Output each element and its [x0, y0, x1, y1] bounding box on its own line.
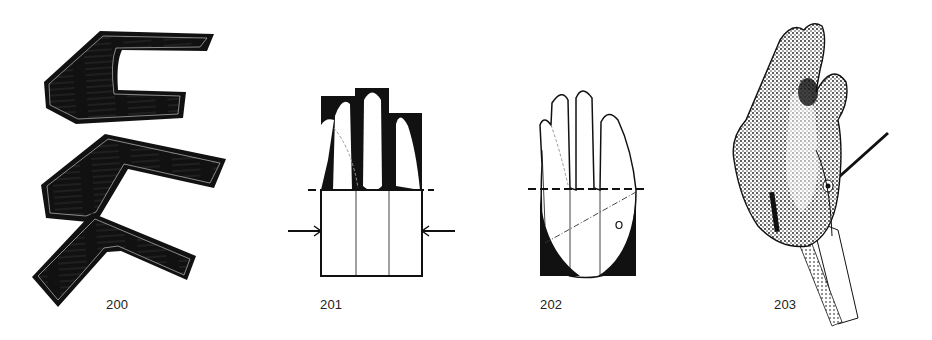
figure-label: 200: [106, 297, 128, 312]
palm-mark-icon: [616, 222, 622, 229]
figure-200: 200: [0, 0, 240, 340]
figure-202: 202: [520, 0, 670, 340]
figure-label: 202: [540, 297, 562, 312]
figure-201: 201: [280, 0, 470, 340]
wood-blanks-illustration: [0, 0, 240, 340]
figure-203: 203: [720, 0, 932, 340]
figure-label: 201: [320, 297, 342, 312]
hand-outline-illustration: [520, 0, 670, 340]
figure-label: 203: [774, 297, 796, 312]
arrow-left-icon: [422, 226, 455, 236]
sculpted-hand-illustration: [720, 0, 932, 340]
arrow-right-icon: [288, 226, 321, 236]
hand-pattern-illustration: [280, 0, 470, 340]
